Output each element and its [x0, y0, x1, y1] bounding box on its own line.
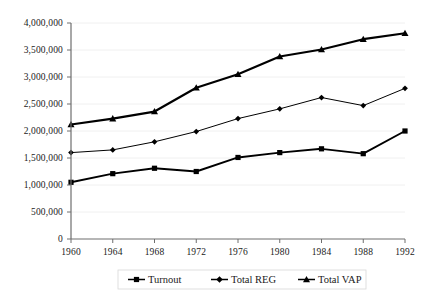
chart-container: 0500,0001,000,0001,500,0002,000,0002,500… [0, 0, 430, 307]
data-point-turnout [402, 128, 407, 133]
x-tick-label: 1964 [103, 247, 123, 257]
y-tick-label: 3,000,000 [24, 72, 63, 82]
legend-label-turnout: Turnout [148, 274, 182, 285]
chart-legend: TurnoutTotal REGTotal VAP [118, 270, 366, 289]
x-tick-label: 1980 [270, 247, 290, 257]
legend-marker-square-icon [134, 277, 139, 282]
data-point-turnout [319, 146, 324, 151]
data-point-turnout [152, 166, 157, 171]
legend-label-total-vap: Total VAP [318, 274, 362, 285]
data-point-turnout [277, 150, 282, 155]
y-tick-label: 500,000 [31, 207, 63, 217]
y-tick-label: 2,000,000 [24, 126, 63, 136]
x-tick-label: 1976 [228, 247, 248, 257]
data-point-turnout [194, 169, 199, 174]
data-point-turnout [110, 171, 115, 176]
y-tick-label: 1,000,000 [24, 180, 63, 190]
data-point-turnout [361, 151, 366, 156]
y-tick-label: 2,500,000 [24, 99, 63, 109]
x-tick-label: 1960 [61, 247, 81, 257]
legend-label-total-reg: Total REG [231, 274, 276, 285]
line-chart: 0500,0001,000,0001,500,0002,000,0002,500… [0, 0, 430, 307]
y-tick-label: 0 [58, 234, 63, 244]
x-tick-label: 1988 [353, 247, 373, 257]
x-tick-label: 1972 [186, 247, 206, 257]
y-tick-label: 4,000,000 [24, 18, 63, 28]
y-tick-label: 1,500,000 [24, 153, 63, 163]
x-tick-label: 1984 [312, 247, 332, 257]
y-tick-label: 3,500,000 [24, 45, 63, 55]
x-tick-label: 1992 [395, 247, 415, 257]
data-point-turnout [235, 155, 240, 160]
x-tick-label: 1968 [145, 247, 165, 257]
